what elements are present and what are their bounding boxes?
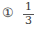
circled-number-marker: ① [1, 6, 14, 19]
fraction-numerator: 1 [23, 1, 34, 13]
answer-option-1[interactable]: ① 1 3 [0, 0, 39, 29]
fraction: 1 3 [23, 1, 34, 28]
fraction-denominator: 3 [23, 15, 34, 27]
